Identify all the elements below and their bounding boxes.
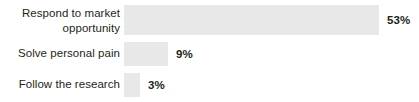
bar-track [124,5,379,35]
bar-category-label: Solve personal pain [0,46,120,61]
bar-fill [124,5,379,35]
bar-track [124,73,140,97]
bar-value-label: 53% [387,14,410,26]
bar-fill [124,42,168,66]
bar-value-label: 9% [176,48,193,60]
bar-row: Solve personal pain 9% [0,42,419,66]
horizontal-bar-chart: Respond to market opportunity 53% Solve … [0,0,419,102]
bar-category-label: Respond to market opportunity [0,6,120,36]
bar-fill [124,73,140,97]
bar-track [124,42,168,66]
bar-value-label: 3% [148,79,165,91]
bar-row: Respond to market opportunity 53% [0,5,419,35]
bar-category-label: Follow the research [0,77,120,92]
bar-row: Follow the research 3% [0,73,419,97]
